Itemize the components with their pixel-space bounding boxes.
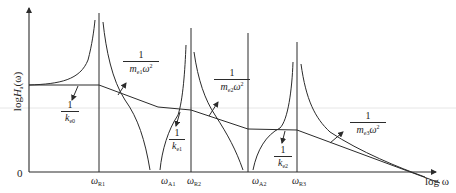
den-sub: e1 <box>176 146 182 152</box>
tick-symbol: ω <box>292 175 299 186</box>
frac-denominator: me2ω2 <box>213 80 251 93</box>
label-1-over-me1-omega2: 1 me1ω2 <box>122 50 160 75</box>
leader-arrow-ke2 <box>282 131 285 143</box>
label-1-over-ke0: 1 ke0 <box>60 100 80 124</box>
frac-denominator: ke0 <box>60 112 80 124</box>
tick-sub: R2 <box>194 181 201 187</box>
leader-arrow-ke0 <box>72 86 78 100</box>
y-label-suffix: (ω) <box>11 72 23 87</box>
y-axis-label: logHa(ω) <box>11 57 24 127</box>
tick-sub: R3 <box>299 181 306 187</box>
y-label-prefix: log <box>11 97 23 111</box>
tick-sub: A1 <box>168 181 175 187</box>
frac-denominator: ke1 <box>167 140 187 152</box>
diagram-canvas <box>0 0 456 193</box>
frac-denominator: me1ω2 <box>122 62 160 75</box>
origin-label: 0 <box>17 168 23 179</box>
den-symbol: m <box>130 63 137 74</box>
tick-omega-r1: ωR1 <box>91 176 105 187</box>
tick-omega-a1: ωA1 <box>161 176 175 187</box>
frac-numerator: 1 <box>122 50 160 61</box>
label-1-over-me2-omega2: 1 me2ω2 <box>213 68 251 93</box>
label-1-over-ke1: 1 ke1 <box>167 128 187 152</box>
den-symbol: m <box>357 124 364 135</box>
tick-omega-r2: ωR2 <box>187 176 201 187</box>
frac-numerator: 1 <box>167 128 187 139</box>
frequency-response-diagram: logHa(ω) 0 log ω ωR1 ωA1 ωR2 ωA2 ωR3 1 k… <box>0 0 456 193</box>
tick-omega-r3: ωR3 <box>292 176 306 187</box>
tick-symbol: ω <box>161 175 168 186</box>
den-sup: 2 <box>149 63 152 69</box>
response-curve-seg2 <box>103 22 150 170</box>
label-1-over-ke2: 1 ke2 <box>273 145 293 169</box>
tick-symbol: ω <box>187 175 194 186</box>
y-label-sub: a <box>18 86 24 89</box>
tick-sub: R1 <box>98 181 105 187</box>
response-curve-seg1 <box>29 20 95 85</box>
tick-omega-a2: ωA2 <box>252 176 266 187</box>
den-sub: e2 <box>282 163 288 169</box>
tick-symbol: ω <box>252 175 259 186</box>
leader-arrow-me2 <box>209 102 218 116</box>
tick-symbol: ω <box>91 175 98 186</box>
frac-numerator: 1 <box>349 111 387 122</box>
tick-sub: A2 <box>259 181 266 187</box>
den-sup: 2 <box>376 124 379 130</box>
den-sub: e0 <box>69 118 75 124</box>
frac-numerator: 1 <box>273 145 293 156</box>
den-sup: 2 <box>240 81 243 87</box>
frac-denominator: me3ω2 <box>349 123 387 136</box>
frac-numerator: 1 <box>60 100 80 111</box>
den-symbol: m <box>221 81 228 92</box>
label-1-over-me3-omega2: 1 me3ω2 <box>349 111 387 136</box>
frac-denominator: ke2 <box>273 157 293 169</box>
y-label-symbol: H <box>11 89 23 97</box>
x-axis-label: log ω <box>425 176 449 187</box>
frac-numerator: 1 <box>213 68 251 79</box>
